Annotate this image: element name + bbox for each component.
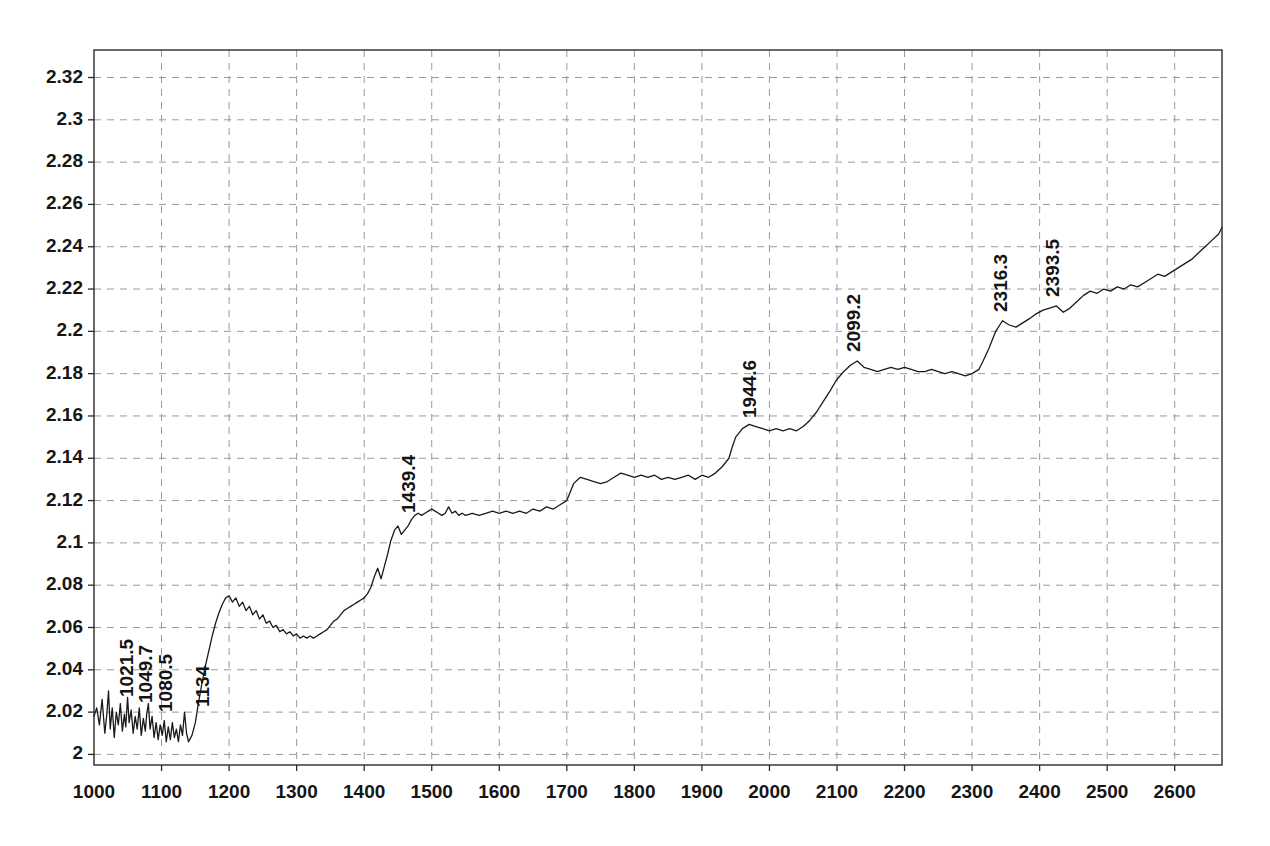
- plot-frame: [94, 50, 1222, 765]
- y-axis-tick-label: 2.22: [46, 277, 83, 299]
- y-axis-tick-label: 2.02: [46, 700, 83, 722]
- y-axis-tick-label: 2.3: [57, 108, 83, 130]
- y-axis-tick-label: 2.08: [46, 573, 83, 595]
- y-axis-tick-label: 2.18: [46, 362, 83, 384]
- y-axis-tick-label: 2.1: [57, 531, 83, 553]
- plot-canvas: [0, 0, 1270, 846]
- peak-label: 2316.3: [990, 254, 1012, 312]
- peak-label: 2393.5: [1042, 239, 1064, 297]
- peak-label: 1944.6: [739, 359, 761, 417]
- y-axis-tick-label: 2: [72, 742, 83, 764]
- y-axis-tick-label: 2.28: [46, 150, 83, 172]
- data-series-spectrum: [94, 228, 1222, 742]
- y-axis-tick-label: 2.14: [46, 446, 83, 468]
- y-axis-tick-label: 2.04: [46, 658, 83, 680]
- y-axis-tick-label: 2.06: [46, 616, 83, 638]
- peak-label: 1439.4: [398, 455, 420, 513]
- y-axis-tick-label: 2.2: [57, 319, 83, 341]
- peak-label: 2099.2: [843, 294, 865, 352]
- peak-label: 1134: [192, 666, 214, 707]
- y-axis-tick-label: 2.24: [46, 235, 83, 257]
- x-axis-tick-label: 2600: [1135, 781, 1215, 803]
- y-axis-tick-label: 2.32: [46, 66, 83, 88]
- y-axis-tick-label: 2.16: [46, 404, 83, 426]
- y-axis-tick-label: 2.12: [46, 489, 83, 511]
- y-axis-tick-label: 2.26: [46, 192, 83, 214]
- peak-label: 1049.7: [135, 645, 157, 703]
- peak-label: 1080.5: [155, 653, 177, 711]
- spectrum-chart: 22.022.042.062.082.12.122.142.162.182.22…: [0, 0, 1270, 846]
